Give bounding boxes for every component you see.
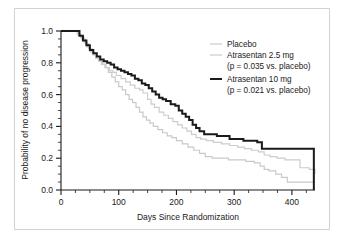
x-tick-label: 0 [59, 197, 64, 207]
x-tick-label: 300 [227, 197, 241, 207]
legend-label: Atrasentan 10 mg [227, 75, 292, 84]
legend-sublabel: (p = 0.035 vs. placebo) [227, 62, 311, 71]
x-axis-title: Days Since Randomization [137, 212, 239, 222]
x-tick-label: 400 [285, 197, 299, 207]
y-tick-label: 0.8 [41, 58, 53, 68]
y-tick-label: 0.2 [41, 153, 53, 163]
y-axis-tick-labels: 0.00.20.40.60.81.0 [41, 26, 53, 195]
y-tick-label: 0.0 [41, 185, 53, 195]
x-tick-label: 200 [169, 197, 183, 207]
x-tick-label: 100 [112, 197, 126, 207]
y-tick-label: 0.4 [41, 121, 53, 131]
y-tick-label: 1.0 [41, 26, 53, 36]
kaplan-meier-chart: 0.00.20.40.60.81.0 0100200300400 Days Si… [15, 9, 329, 229]
chart-legend: PlaceboAtrasentan 2.5 mg(p = 0.035 vs. p… [210, 40, 311, 95]
legend-label: Placebo [227, 40, 257, 49]
x-axis-tick-labels: 0100200300400 [59, 197, 300, 207]
y-axis-title: Probability of no disease progression [20, 40, 30, 180]
x-axis-major-ticks [61, 190, 292, 195]
y-tick-label: 0.6 [41, 90, 53, 100]
legend-sublabel: (p = 0.021 vs. placebo) [227, 86, 311, 95]
legend-label: Atrasentan 2.5 mg [227, 51, 294, 60]
figure-frame: 0.00.20.40.60.81.0 0100200300400 Days Si… [14, 8, 330, 230]
